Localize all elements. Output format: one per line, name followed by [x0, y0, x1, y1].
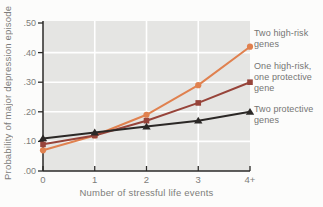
data-marker-square [40, 142, 46, 148]
legend-item-two-high-risk-genes: Two high-risk genes [254, 28, 323, 50]
y-tick-label: .40 [23, 48, 36, 58]
data-marker-square [195, 100, 201, 106]
x-tick-label: 2 [144, 174, 149, 185]
y-tick-label: .30 [23, 77, 36, 87]
data-marker-circle [143, 112, 149, 118]
y-tick-label: .00 [23, 166, 36, 176]
y-tick-label: .20 [23, 107, 36, 117]
y-tick-label: .50 [23, 18, 36, 28]
data-marker-circle [195, 82, 201, 88]
data-marker-circle [247, 44, 253, 50]
x-tick-label: 3 [196, 174, 201, 185]
legend-item-two-protective-genes: Two protective genes [254, 104, 323, 126]
x-tick-label: 0 [40, 174, 45, 185]
x-tick-label: 1 [92, 174, 97, 185]
x-axis-label: Number of stressful life events [43, 187, 250, 198]
data-marker-circle [40, 147, 46, 153]
depression-risk-chart: Probability of major depression episode … [0, 0, 323, 207]
x-tick-label: 4+ [245, 174, 256, 185]
y-axis-label: Probability of major depression episode [2, 5, 13, 181]
legend-item-one-high-risk-one-protective-gene: One high-risk, one protective gene [254, 61, 323, 94]
data-marker-square [144, 118, 150, 124]
data-marker-square [247, 79, 253, 85]
y-tick-label: .10 [23, 136, 36, 146]
